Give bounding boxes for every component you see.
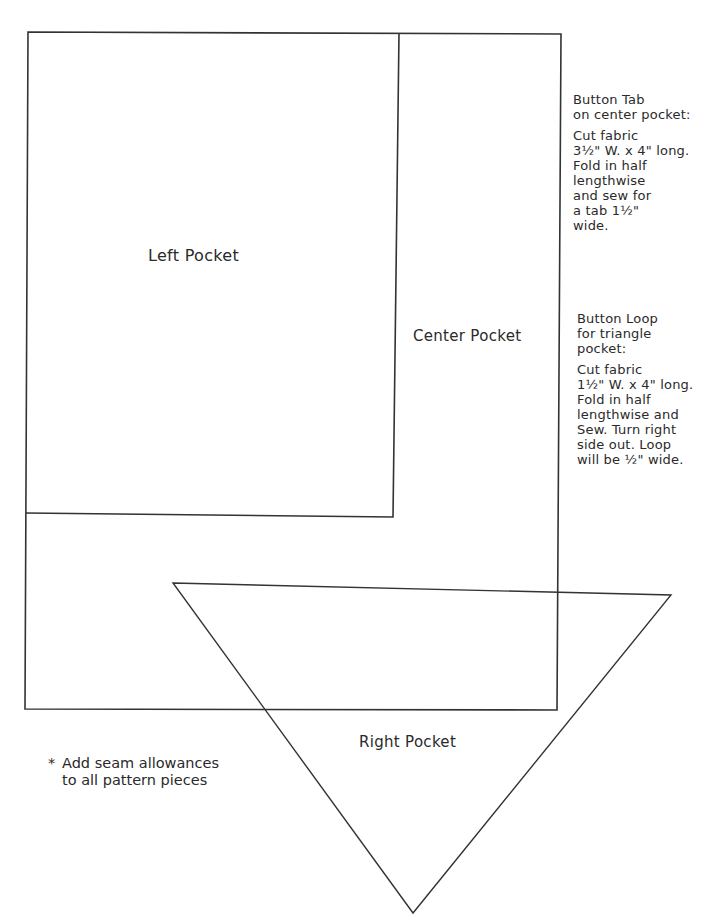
note-line: lengthwise and (577, 407, 693, 422)
note-line: lengthwise (573, 173, 691, 188)
button-loop-note: Button Loop for triangle pocket: Cut fab… (577, 311, 693, 467)
button-tab-heading: Button Tab on center pocket: (573, 92, 691, 122)
note-line: and sew for (573, 188, 691, 203)
asterisk-icon: * (48, 755, 62, 772)
note-line: 3½" W. x 4" long. (573, 143, 691, 158)
note-line: Cut fabric (577, 362, 693, 377)
right-pocket-label: Right Pocket (359, 733, 456, 751)
note-line: wide. (573, 218, 691, 233)
footnote-line: Add seam allowances (62, 755, 219, 771)
note-line: a tab 1½" (573, 203, 691, 218)
note-heading-line: Button Tab (573, 92, 691, 107)
left-pocket-outline (26, 33, 399, 517)
left-pocket-label: Left Pocket (148, 246, 239, 265)
note-line: Fold in half (577, 392, 693, 407)
note-heading-line: on center pocket: (573, 107, 691, 122)
note-line: side out. Loop (577, 437, 693, 452)
outer-rectangle-piece (25, 32, 561, 710)
note-heading-line: for triangle (577, 326, 693, 341)
note-line: Sew. Turn right (577, 422, 693, 437)
note-line: will be ½" wide. (577, 452, 693, 467)
note-line: Fold in half (573, 158, 691, 173)
button-loop-heading: Button Loop for triangle pocket: (577, 311, 693, 356)
note-line: Cut fabric (573, 128, 691, 143)
note-heading-line: pocket: (577, 341, 693, 356)
note-line: 1½" W. x 4" long. (577, 377, 693, 392)
seam-allowance-footnote: *Add seam allowances to all pattern piec… (48, 755, 219, 789)
footnote-line: to all pattern pieces (48, 772, 219, 789)
center-pocket-label: Center Pocket (413, 327, 521, 345)
button-tab-note: Button Tab on center pocket: Cut fabric … (573, 92, 691, 233)
note-heading-line: Button Loop (577, 311, 693, 326)
